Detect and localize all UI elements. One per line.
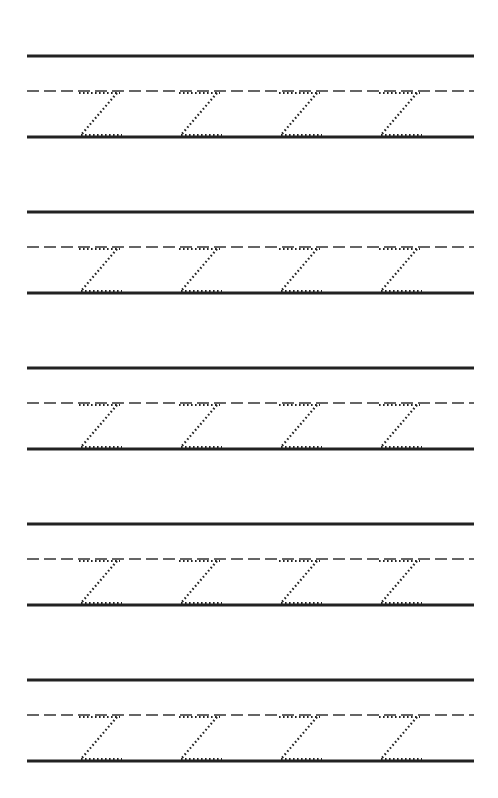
- handwriting-worksheet: ZZZZZZZZZZZZZZZZZZZZ: [0, 0, 498, 798]
- writing-row[interactable]: ZZZZ: [0, 0, 474, 449]
- writing-row[interactable]: ZZZZ: [0, 0, 474, 761]
- trace-letter-z[interactable]: Z: [0, 0, 322, 759]
- trace-letter-z[interactable]: Z: [0, 0, 422, 447]
- trace-letter-z[interactable]: Z: [0, 0, 122, 759]
- trace-letter-z[interactable]: Z: [0, 0, 422, 135]
- trace-letter-z[interactable]: Z: [0, 0, 222, 135]
- trace-letter-z[interactable]: Z: [0, 0, 422, 759]
- writing-row[interactable]: ZZZZ: [0, 0, 474, 137]
- trace-letter-z[interactable]: Z: [0, 0, 322, 447]
- trace-letter-z[interactable]: Z: [0, 0, 322, 135]
- trace-letter-z[interactable]: Z: [0, 0, 122, 447]
- trace-letter-z[interactable]: Z: [0, 0, 122, 135]
- writing-row[interactable]: ZZZZ: [0, 0, 474, 293]
- trace-letter-z[interactable]: Z: [0, 0, 222, 759]
- trace-letter-z[interactable]: Z: [0, 0, 222, 447]
